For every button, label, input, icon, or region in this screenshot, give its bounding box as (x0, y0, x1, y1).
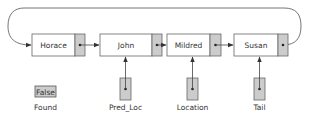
flag-value: False (36, 88, 55, 97)
node-3: Susan (234, 34, 288, 56)
node-1: John (100, 34, 162, 56)
node-info-text: John (117, 41, 135, 50)
node-info-text: Horace (40, 41, 67, 50)
flag-label: Found (34, 103, 57, 112)
pointer-pred-loc: Pred_Loc (109, 57, 142, 112)
pointer-dot (282, 44, 285, 47)
pointer-location: Location (177, 57, 209, 112)
node-info-text: Mildred (175, 41, 203, 50)
found-flag: False Found (34, 86, 57, 112)
node-0: Horace (32, 34, 85, 56)
pointer-label: Pred_Loc (109, 103, 142, 112)
linked-list-diagram: Horace John Mildred Susan Pred_Loc Locat… (0, 0, 313, 121)
node-info-text: Susan (245, 41, 268, 50)
pointer-tail: Tail (252, 57, 265, 112)
pointer-label: Tail (252, 103, 265, 112)
node-2: Mildred (167, 34, 221, 56)
pointer-label: Location (177, 103, 209, 112)
